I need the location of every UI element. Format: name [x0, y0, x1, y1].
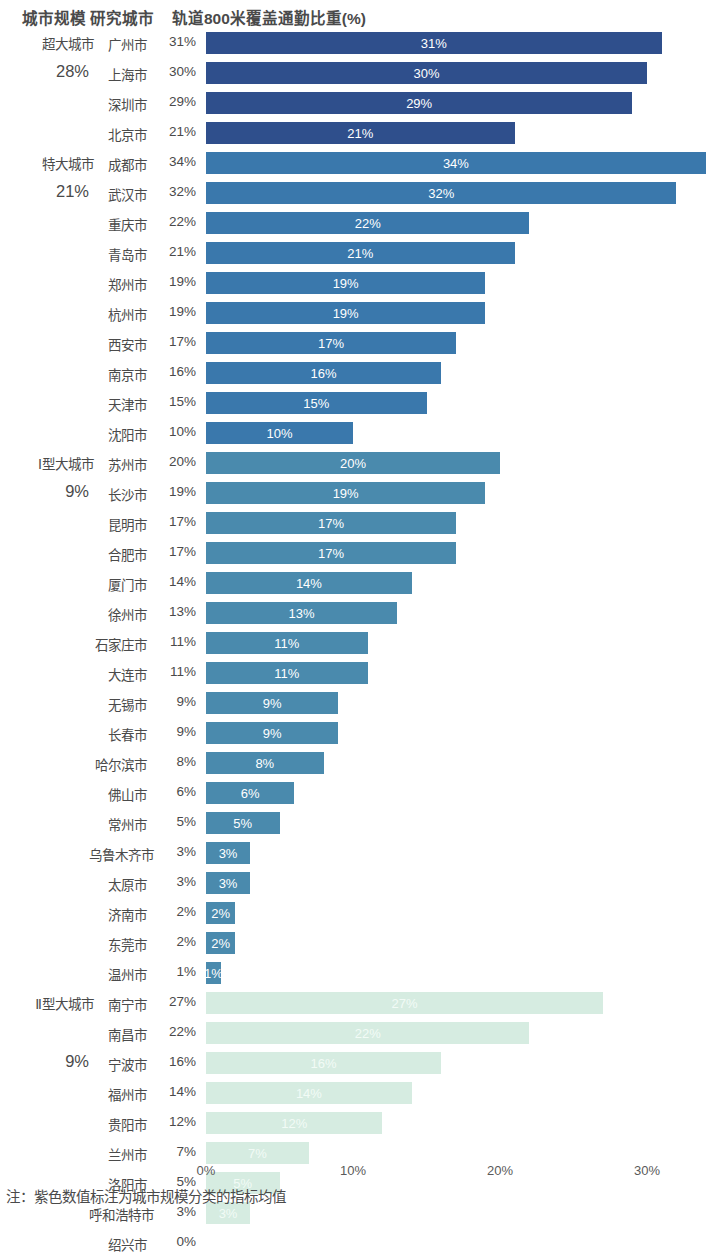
bar[interactable]: 21% [206, 122, 515, 144]
chart-row: 深圳市29%29% [0, 88, 697, 118]
chart-row: 徐州市13%13% [0, 598, 697, 628]
chart-row: 合肥市17%17% [0, 538, 697, 568]
city-name: 郑州市 [96, 274, 158, 294]
city-name: 福州市 [96, 1084, 158, 1104]
row-value: 19% [160, 484, 196, 499]
chart-row: 杭州市19%19% [0, 298, 697, 328]
bar-track: 14% [206, 1082, 697, 1104]
bar[interactable]: 22% [206, 1022, 529, 1044]
bar-value-label: 22% [355, 217, 381, 230]
group-label: 特大城市 [42, 153, 94, 173]
bar[interactable]: 9% [206, 692, 338, 714]
bar[interactable]: 15% [206, 392, 427, 414]
bar[interactable]: 31% [206, 32, 662, 54]
bar[interactable]: 12% [206, 1112, 382, 1134]
row-value: 31% [160, 34, 196, 49]
bar-track: 15% [206, 392, 697, 414]
row-value: 10% [160, 424, 196, 439]
city-name: 南宁市 [96, 994, 158, 1014]
bar-value-label: 19% [333, 487, 359, 500]
bar-track: 21% [206, 242, 697, 264]
city-name: 温州市 [96, 964, 158, 984]
chart-row: 昆明市17%17% [0, 508, 697, 538]
bar[interactable]: 11% [206, 632, 368, 654]
bar[interactable]: 8% [206, 752, 324, 774]
bar[interactable]: 11% [206, 662, 368, 684]
bar[interactable]: 13% [206, 602, 397, 624]
bar[interactable]: 10% [206, 422, 353, 444]
city-name: 无锡市 [96, 694, 158, 714]
bar[interactable]: 27% [206, 992, 603, 1014]
bar-track: 30% [206, 62, 697, 84]
bar-track: 22% [206, 1022, 697, 1044]
bar[interactable]: 16% [206, 362, 441, 384]
column-header-city-size: 城市规模 [22, 6, 86, 28]
bar[interactable]: 5% [206, 812, 280, 834]
bar[interactable]: 1% [206, 962, 221, 984]
chart-row: 特大城市成都市34%34% [0, 148, 697, 178]
row-value: 7% [160, 1144, 196, 1159]
bar[interactable]: 2% [206, 902, 235, 924]
row-value: 29% [160, 94, 196, 109]
city-name: 南昌市 [96, 1024, 158, 1044]
bar[interactable]: 7% [206, 1142, 309, 1164]
bar-value-label: 11% [274, 667, 299, 680]
chart-row: 9%宁波市16%16% [0, 1048, 697, 1078]
bar-track: 13% [206, 602, 697, 624]
bar[interactable]: 30% [206, 62, 647, 84]
bar[interactable]: 14% [206, 1082, 412, 1104]
row-value: 16% [160, 1054, 196, 1069]
row-value: 17% [160, 544, 196, 559]
bar-value-label: 17% [318, 547, 344, 560]
axis-tick: 30% [634, 1163, 660, 1178]
bar[interactable]: 16% [206, 1052, 441, 1074]
bar[interactable]: 17% [206, 512, 456, 534]
bar-value-label: 15% [303, 397, 329, 410]
bar[interactable]: 6% [206, 782, 294, 804]
bar[interactable]: 2% [206, 932, 235, 954]
city-name: 东莞市 [96, 934, 158, 954]
bar-value-label: 11% [274, 637, 299, 650]
chart-row: 南昌市22%22% [0, 1018, 697, 1048]
bar[interactable]: 9% [206, 722, 338, 744]
bar[interactable]: 19% [206, 482, 485, 504]
bar-value-label: 22% [355, 1027, 381, 1040]
chart-row: 太原市3%3% [0, 868, 697, 898]
city-name: 太原市 [96, 874, 158, 894]
city-name: 常州市 [96, 814, 158, 834]
bar-track: 9% [206, 692, 697, 714]
bar[interactable]: 3% [206, 842, 250, 864]
chart-row: 9%长沙市19%19% [0, 478, 697, 508]
city-name: 苏州市 [96, 454, 158, 474]
bar-value-label: 3% [219, 877, 238, 890]
chart-row: 温州市1%1% [0, 958, 697, 988]
bar[interactable]: 19% [206, 272, 485, 294]
bar-value-label: 19% [333, 307, 359, 320]
bar[interactable]: 22% [206, 212, 529, 234]
bar[interactable]: 17% [206, 332, 456, 354]
bar-track: 21% [206, 122, 697, 144]
bar[interactable]: 17% [206, 542, 456, 564]
bar-track: 22% [206, 212, 697, 234]
row-value: 5% [160, 814, 196, 829]
bar-value-label: 34% [443, 157, 469, 170]
bar-value-label: 9% [263, 727, 282, 740]
bar[interactable]: 29% [206, 92, 632, 114]
axis-tick: 10% [340, 1163, 366, 1178]
bar[interactable]: 14% [206, 572, 412, 594]
bar-value-label: 21% [347, 127, 373, 140]
bar-track: 19% [206, 482, 697, 504]
bar[interactable]: 32% [206, 182, 676, 204]
bar-track: 11% [206, 632, 697, 654]
bar-value-label: 16% [311, 367, 337, 380]
city-name: 呼和浩特市 [84, 1204, 158, 1224]
bar[interactable]: 19% [206, 302, 485, 324]
bar[interactable]: 34% [206, 152, 706, 174]
row-value: 14% [160, 574, 196, 589]
bar[interactable]: 3% [206, 872, 250, 894]
bar-track: 34% [206, 152, 697, 174]
city-name: 哈尔滨市 [84, 754, 158, 774]
bar[interactable]: 21% [206, 242, 515, 264]
row-value: 6% [160, 784, 196, 799]
bar[interactable]: 20% [206, 452, 500, 474]
